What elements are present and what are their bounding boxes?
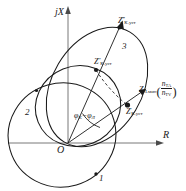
horizontal-axis-label: R [163, 130, 169, 140]
zl-min-close-paren: ) [172, 85, 176, 99]
horizontal-axis-arrow [156, 140, 164, 145]
curve-number-1-label: 1 [99, 174, 104, 183]
curve-number-2-label: 2 [25, 108, 30, 117]
label-zl-min-vector: ZЛ.мин(nТАnТV) [139, 80, 177, 98]
label-z-k-set-2: Z″К.уст [94, 58, 112, 67]
label-z-k-set-3: Z‴К.уст [118, 17, 136, 26]
impedance-plane-figure: jX R O 1 2 3 Z‴К.уст Z″К.уст Z′К.уст ZЛ.… [0, 0, 186, 191]
label-z-k-set-1: Z′К.уст [126, 108, 143, 117]
curve-number-3-label: 3 [122, 42, 127, 51]
zl-min-sub: Л.мин [143, 89, 156, 94]
point-marker-curve-1 [94, 172, 97, 175]
intersection-markers [35, 89, 38, 92]
z-k-set-3-sub: К.уст [124, 20, 135, 25]
phi-l-sub: Л [92, 115, 95, 120]
vertical-axis-arrow [65, 6, 71, 14]
curve-1-circle [0, 70, 128, 191]
z-k-set-2-sub: К.уст [100, 61, 111, 66]
intersection-marker-left [35, 89, 38, 92]
zl-min-denominator: nТV [161, 89, 173, 97]
vertical-axis-label: jX [55, 7, 64, 17]
point-marker-z-k-set-2 [94, 68, 98, 72]
zl-min-fraction: nТАnТV [161, 80, 173, 98]
label-angle-phi-difference: φК−φЛ [74, 112, 95, 121]
dashed-chord-line [96, 70, 127, 105]
origin-label: O [57, 145, 64, 155]
axes-group [8, 10, 160, 143]
z-k-set-1-sub: К.уст [131, 111, 142, 116]
